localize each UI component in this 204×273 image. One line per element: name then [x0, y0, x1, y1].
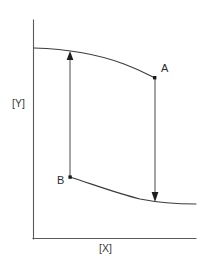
point-b-marker	[68, 175, 71, 178]
plot-figure: A B [Y] [X]	[0, 0, 204, 273]
point-a-label: A	[161, 62, 169, 74]
right-gap-arrow	[152, 79, 159, 202]
left-gap-arrow-head-up	[67, 51, 74, 60]
y-axis-label: [Y]	[12, 97, 25, 109]
left-gap-arrow	[67, 51, 74, 177]
diagram-canvas: A B [Y] [X]	[0, 0, 204, 273]
upper-curve	[34, 48, 155, 78]
x-axis-label: [X]	[99, 242, 112, 254]
point-a-marker	[153, 76, 156, 79]
lower-curve	[70, 177, 196, 204]
right-gap-arrow-head-down	[152, 192, 159, 202]
point-b-label: B	[57, 174, 64, 186]
